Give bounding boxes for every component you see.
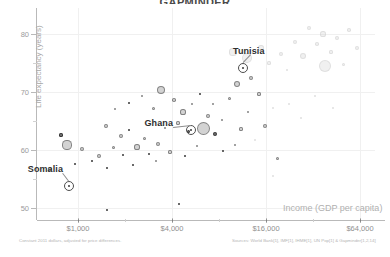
data-bubble[interactable]	[315, 42, 319, 46]
y-axis-tick-label: 60	[16, 146, 29, 155]
data-bubble[interactable]	[293, 40, 297, 44]
highlighted-marker-somalia[interactable]	[64, 181, 74, 191]
data-bubble[interactable]	[168, 150, 171, 153]
data-bubble[interactable]	[234, 144, 236, 146]
data-bubble[interactable]	[286, 69, 289, 72]
data-bubble[interactable]	[148, 153, 151, 156]
data-bubble[interactable]	[191, 103, 194, 106]
x-axis-tick	[172, 218, 173, 223]
marker-center-dot	[68, 185, 71, 188]
data-bubble[interactable]	[143, 137, 146, 140]
data-bubble[interactable]	[263, 124, 267, 128]
data-bubble[interactable]	[134, 144, 139, 149]
data-bubble[interactable]	[320, 31, 325, 36]
data-bubble[interactable]	[155, 160, 158, 163]
data-bubble[interactable]	[152, 107, 155, 110]
data-bubble[interactable]	[106, 209, 108, 211]
data-bubble[interactable]	[91, 160, 93, 162]
data-bubble[interactable]	[74, 163, 77, 166]
data-bubble[interactable]	[106, 167, 109, 170]
data-bubble[interactable]	[307, 26, 312, 31]
marker-center-dot	[242, 67, 245, 70]
x-axis-minor-tick	[125, 219, 126, 222]
highlighted-marker-ghana[interactable]	[186, 125, 196, 135]
data-bubble[interactable]	[272, 175, 274, 177]
leader-line-somalia	[62, 173, 69, 181]
gridline-vertical	[360, 8, 361, 220]
plot-area: SomaliaGhanaTunisia	[37, 8, 375, 220]
data-bubble[interactable]	[114, 108, 117, 111]
data-bubble[interactable]	[180, 109, 185, 114]
data-bubble[interactable]	[222, 150, 225, 153]
data-bubble[interactable]	[172, 98, 176, 102]
data-bubble[interactable]	[347, 28, 351, 32]
data-bubble[interactable]	[112, 146, 115, 149]
y-axis-tick-label: 50	[16, 204, 29, 213]
data-bubble[interactable]	[300, 117, 302, 119]
data-bubble[interactable]	[221, 119, 224, 122]
data-bubble[interactable]	[342, 63, 345, 66]
data-bubble[interactable]	[239, 127, 242, 130]
chart-title: GAPMINDER	[0, 0, 390, 4]
highlighted-marker-tunisia[interactable]	[238, 63, 248, 73]
data-bubble[interactable]	[288, 103, 291, 106]
data-bubble[interactable]	[197, 122, 210, 135]
data-bubble[interactable]	[206, 114, 210, 118]
data-bubble[interactable]	[249, 76, 254, 81]
x-axis-tick-label: $16,000	[252, 224, 279, 233]
data-bubble[interactable]	[279, 52, 283, 56]
data-bubble[interactable]	[228, 97, 231, 100]
data-bubble[interactable]	[247, 111, 250, 114]
gridline-vertical	[78, 8, 79, 220]
data-bubble[interactable]	[355, 46, 359, 50]
gridline-vertical	[172, 8, 173, 220]
x-axis-tick-label: $64,000	[346, 224, 373, 233]
y-axis-tick-label: 70	[16, 88, 29, 97]
x-axis-tick-label: $1,000	[67, 224, 90, 233]
footnote-right: Sources: World Bank[1], IMF[1], IHME[1],…	[232, 238, 376, 243]
data-bubble[interactable]	[59, 133, 62, 136]
data-bubble[interactable]	[234, 81, 241, 88]
data-bubble[interactable]	[156, 142, 160, 146]
data-bubble[interactable]	[184, 155, 187, 158]
y-axis-minor-tick	[33, 121, 37, 122]
data-bubble[interactable]	[97, 154, 101, 158]
data-bubble[interactable]	[335, 36, 339, 40]
country-label-ghana[interactable]: Ghana	[144, 118, 173, 128]
data-bubble[interactable]	[212, 103, 214, 105]
data-bubble[interactable]	[178, 203, 180, 205]
x-axis-minor-tick	[219, 219, 220, 222]
data-bubble[interactable]	[62, 140, 71, 149]
data-bubble[interactable]	[257, 92, 260, 95]
y-axis-tick	[31, 208, 37, 209]
data-bubble[interactable]	[300, 53, 306, 59]
marker-center-dot	[190, 129, 193, 132]
data-bubble[interactable]	[332, 107, 334, 109]
data-bubble[interactable]	[119, 134, 123, 138]
data-bubble[interactable]	[128, 129, 131, 132]
x-axis-title: Income (GDP per capita)	[283, 203, 382, 213]
x-axis-minor-tick	[313, 219, 314, 222]
gridline-horizontal	[37, 150, 375, 151]
data-bubble[interactable]	[176, 121, 179, 124]
data-bubble[interactable]	[196, 145, 199, 148]
country-label-somalia[interactable]: Somalia	[28, 164, 63, 174]
gridline-horizontal	[37, 92, 375, 93]
data-bubble[interactable]	[319, 60, 331, 72]
data-bubble[interactable]	[104, 124, 108, 128]
data-bubble[interactable]	[314, 95, 317, 98]
data-bubble[interactable]	[122, 154, 125, 157]
data-bubble[interactable]	[329, 50, 332, 53]
x-axis-line	[37, 220, 385, 221]
data-bubble[interactable]	[213, 132, 217, 136]
data-bubble[interactable]	[141, 95, 144, 98]
data-bubble[interactable]	[272, 107, 275, 110]
data-bubble[interactable]	[254, 139, 257, 142]
data-bubble[interactable]	[276, 157, 279, 160]
data-bubble[interactable]	[199, 93, 202, 96]
data-bubble[interactable]	[267, 61, 270, 64]
data-bubble[interactable]	[80, 147, 84, 151]
data-bubble[interactable]	[132, 164, 134, 166]
data-bubble[interactable]	[128, 102, 130, 104]
gapminder-bubble-chart: GAPMINDER SomaliaGhanaTunisia 80706050$1…	[0, 0, 390, 257]
